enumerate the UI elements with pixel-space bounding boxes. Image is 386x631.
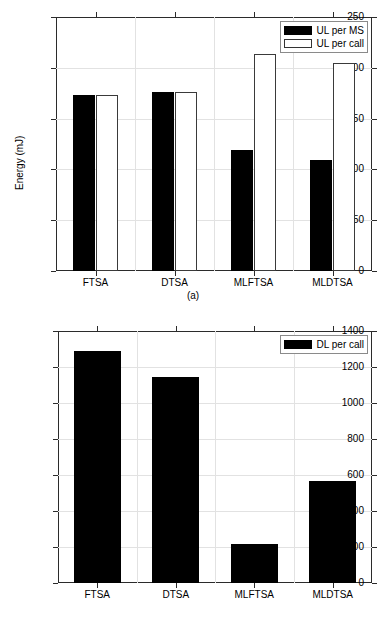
bar	[310, 160, 332, 271]
x-tick-mark	[97, 583, 98, 588]
y-tick-mark-right	[372, 403, 377, 404]
y-tick-mark-right	[372, 17, 377, 18]
y-tick-label: 800	[347, 434, 364, 444]
gridline-vertical	[293, 17, 294, 271]
gridline-vertical	[294, 331, 295, 583]
x-tick-mark	[333, 271, 334, 276]
bar	[333, 63, 355, 271]
x-tick-mark-top	[333, 326, 334, 331]
y-tick-mark-right	[372, 439, 377, 440]
y-tick-mark-right	[372, 119, 377, 120]
bar	[254, 54, 276, 271]
y-tick-label: 0	[358, 578, 364, 588]
y-tick-mark	[53, 583, 58, 584]
x-tick-mark-top	[333, 12, 334, 17]
x-tick-mark-top	[175, 12, 176, 17]
y-tick-mark-right	[372, 475, 377, 476]
y-tick-mark	[53, 367, 58, 368]
y-tick-mark	[51, 271, 56, 272]
x-tick-mark	[175, 271, 176, 276]
y-tick-mark-right	[372, 169, 377, 170]
x-tick-mark-top	[254, 326, 255, 331]
x-tick-mark-top	[254, 12, 255, 17]
y-tick-mark	[53, 439, 58, 440]
y-tick-mark	[51, 17, 56, 18]
legend-swatch-icon	[284, 26, 312, 35]
bar	[175, 92, 197, 271]
y-tick-mark	[51, 169, 56, 170]
legend-entry[interactable]: DL per call	[284, 338, 364, 351]
legend-label: DL per call	[317, 340, 364, 350]
chart-panel-b: Energy (mJ) 0200400600800100012001400 FT…	[0, 312, 386, 631]
legend-entry[interactable]: UL per call	[284, 37, 364, 50]
bar	[74, 351, 121, 583]
gridline-vertical	[214, 17, 215, 271]
y-tick-label: 1000	[342, 398, 364, 408]
y-tick-mark	[53, 331, 58, 332]
y-tick-mark-right	[372, 331, 377, 332]
x-tick-mark	[254, 583, 255, 588]
x-tick-mark	[96, 271, 97, 276]
y-tick-mark	[53, 511, 58, 512]
plot-area-b: 0200400600800100012001400 FTSADTSAMLFTSA…	[58, 331, 372, 583]
gridline-vertical	[137, 331, 138, 583]
y-tick-mark-right	[372, 547, 377, 548]
x-tick-label: MLFTSA	[235, 589, 274, 600]
chart-panel-a: Energy (mJ) 050100150200250 FTSADTSAMLFT…	[0, 0, 386, 310]
bar	[309, 481, 356, 583]
legend-label: UL per MS	[317, 26, 364, 36]
x-tick-label: MLFTSA	[234, 277, 273, 288]
legend-b[interactable]: DL per call	[280, 335, 368, 354]
panel-caption-a: (a)	[0, 290, 386, 301]
gridline-vertical	[215, 331, 216, 583]
y-axis-title-a: Energy (mJ)	[14, 136, 25, 190]
legend-label: UL per call	[317, 39, 364, 49]
y-tick-mark	[53, 403, 58, 404]
y-tick-mark	[51, 68, 56, 69]
y-tick-mark-right	[372, 511, 377, 512]
x-tick-mark	[176, 583, 177, 588]
x-tick-mark-top	[176, 326, 177, 331]
bar	[152, 92, 174, 271]
x-tick-mark	[333, 583, 334, 588]
y-tick-label: 600	[347, 470, 364, 480]
x-tick-label: FTSA	[84, 589, 110, 600]
y-tick-mark	[51, 220, 56, 221]
bar	[231, 544, 278, 583]
plot-area-a: 050100150200250 FTSADTSAMLFTSAMLDTSA UL …	[56, 17, 372, 271]
figure: Energy (mJ) 050100150200250 FTSADTSAMLFT…	[0, 0, 386, 631]
x-tick-mark	[254, 271, 255, 276]
bar	[96, 95, 118, 271]
x-tick-label: MLDTSA	[312, 589, 353, 600]
y-tick-mark	[53, 547, 58, 548]
y-tick-mark-right	[372, 367, 377, 368]
legend-a[interactable]: UL per MSUL per call	[280, 21, 368, 53]
y-tick-label: 1200	[342, 362, 364, 372]
y-tick-mark	[53, 475, 58, 476]
bar	[73, 95, 95, 271]
y-tick-mark-right	[372, 220, 377, 221]
legend-swatch-icon	[284, 340, 312, 349]
bar	[231, 150, 253, 271]
y-tick-mark	[51, 119, 56, 120]
x-tick-mark-top	[97, 326, 98, 331]
y-tick-mark-right	[372, 68, 377, 69]
y-tick-label: 0	[358, 266, 364, 276]
legend-entry[interactable]: UL per MS	[284, 24, 364, 37]
y-tick-mark-right	[372, 271, 377, 272]
gridline-vertical	[135, 17, 136, 271]
y-tick-mark-right	[372, 583, 377, 584]
legend-swatch-icon	[284, 39, 312, 48]
x-tick-mark-top	[96, 12, 97, 17]
x-tick-label: DTSA	[161, 277, 188, 288]
bar	[152, 377, 199, 583]
x-tick-label: DTSA	[162, 589, 189, 600]
x-tick-label: MLDTSA	[312, 277, 353, 288]
x-tick-label: FTSA	[83, 277, 109, 288]
